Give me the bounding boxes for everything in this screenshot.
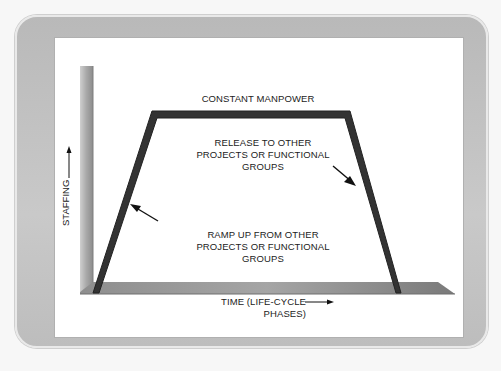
ramp-up-label-line: GROUPS: [188, 253, 338, 265]
y-axis-label: STAFFING: [60, 180, 71, 226]
ramp-up-label: RAMP UP FROM OTHER PROJECTS OR FUNCTIONA…: [188, 229, 338, 265]
release-label-line: GROUPS: [188, 161, 338, 173]
ramp-up-label-line: PROJECTS OR FUNCTIONAL: [188, 241, 338, 253]
x-axis-arrow-icon: [305, 300, 334, 305]
ramp-up-label-line: RAMP UP FROM OTHER: [188, 229, 338, 241]
y-axis-arrow-icon: [67, 146, 72, 178]
constant-manpower-label: CONSTANT MANPOWER: [168, 93, 348, 105]
ramp-up-arrow-icon: [130, 204, 158, 221]
x-axis-label: TIME (LIFE-CYCLE PHASES): [186, 296, 306, 320]
y-axis-bar: [80, 66, 93, 292]
release-label: RELEASE TO OTHER PROJECTS OR FUNCTIONAL …: [188, 137, 338, 173]
release-label-line: PROJECTS OR FUNCTIONAL: [188, 149, 338, 161]
release-label-line: RELEASE TO OTHER: [188, 137, 338, 149]
